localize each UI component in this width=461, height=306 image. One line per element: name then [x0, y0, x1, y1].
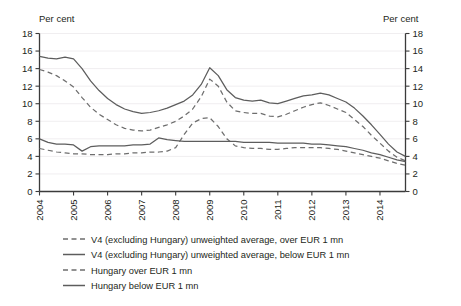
y-tick-label-left: 0 [27, 186, 32, 197]
legend-label-0: V4 (excluding Hungary) unweighted averag… [91, 235, 343, 245]
chart-container: 024681012141618 024681012141618 20042005… [0, 0, 461, 306]
x-tick-label: 2011 [272, 200, 283, 220]
legend-label-1: V4 (excluding Hungary) unweighted averag… [91, 250, 349, 260]
y-tick-label-right: 16 [413, 45, 424, 56]
x-tick-label: 2010 [238, 200, 249, 221]
x-tick-label: 2007 [136, 200, 147, 221]
y-axis-unit-left: Per cent [39, 13, 75, 24]
y-tick-label-left: 2 [27, 168, 32, 179]
y-tick-label-right: 14 [413, 63, 424, 74]
y-axis-unit-right: Per cent [383, 13, 419, 24]
x-tick-label: 2006 [102, 200, 113, 221]
y-tick-label-right: 10 [413, 98, 424, 109]
y-tick-label-left: 18 [22, 28, 33, 39]
y-tick-label-right: 2 [413, 168, 418, 179]
y-tick-label-right: 4 [413, 151, 418, 162]
x-tick-label: 2009 [204, 200, 215, 221]
line-chart: 024681012141618 024681012141618 20042005… [0, 0, 461, 306]
y-tick-label-right: 18 [413, 28, 424, 39]
y-tick-label-left: 6 [27, 133, 32, 144]
x-tick-label: 2013 [340, 200, 351, 221]
x-tick-label: 2014 [374, 200, 385, 221]
legend-label-2: Hungary over EUR 1 mn [91, 266, 192, 276]
legend-label-3: Hungary below EUR 1 mn [91, 281, 198, 291]
y-tick-label-right: 0 [413, 186, 418, 197]
y-tick-label-left: 12 [22, 81, 33, 92]
y-tick-label-right: 6 [413, 133, 418, 144]
y-tick-label-left: 4 [27, 151, 32, 162]
y-tick-label-right: 8 [413, 116, 418, 127]
x-tick-label: 2005 [68, 200, 79, 221]
y-tick-label-right: 12 [413, 81, 424, 92]
x-tick-label: 2004 [34, 200, 45, 221]
y-tick-label-left: 10 [22, 98, 33, 109]
y-tick-label-left: 14 [22, 63, 33, 74]
x-tick-label: 2012 [306, 200, 317, 221]
y-tick-label-left: 16 [22, 45, 33, 56]
y-tick-label-left: 8 [27, 116, 32, 127]
x-tick-label: 2008 [170, 200, 181, 221]
